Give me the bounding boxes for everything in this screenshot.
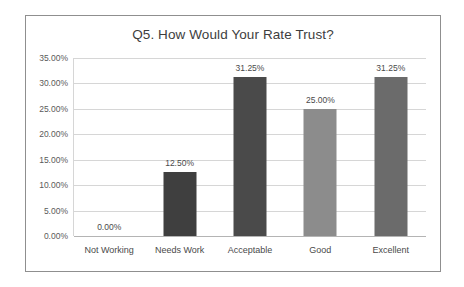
y-axis-tick-label: 5.00% [44,206,68,216]
y-axis-tick-label: 25.00% [39,104,68,114]
bar-slot: 25.00%Good [285,58,355,236]
x-axis-category-label: Good [309,245,331,255]
y-axis-tick-label: 15.00% [39,155,68,165]
bar-slot: 31.25%Excellent [356,58,426,236]
x-axis-category-label: Needs Work [155,245,204,255]
gridline: 0.00% [74,236,426,237]
bar-slot: 31.25%Acceptable [215,58,285,236]
bar-value-label: 12.50% [165,158,194,168]
plot-area: 35.00%30.00%25.00%20.00%15.00%10.00%5.00… [74,58,426,236]
y-axis-tick-label: 35.00% [39,53,68,63]
x-axis-category-label: Acceptable [228,245,273,255]
y-axis-tick-label: 10.00% [39,180,68,190]
bar[interactable] [163,172,196,236]
x-axis-category-label: Excellent [373,245,410,255]
bar-value-label: 25.00% [306,95,335,105]
bar-slot: 12.50%Needs Work [144,58,214,236]
bar-value-label: 31.25% [236,63,265,73]
bar-slot: 0.00%Not Working [74,58,144,236]
y-axis-tick-label: 0.00% [44,231,68,241]
chart-frame: Q5. How Would Your Rate Trust? 35.00%30.… [25,15,441,272]
bar[interactable] [233,77,266,236]
y-axis-tick-label: 20.00% [39,129,68,139]
bar-value-label: 0.00% [97,222,121,232]
x-axis-category-label: Not Working [85,245,134,255]
bar[interactable] [374,77,407,236]
bar-value-label: 31.25% [376,63,405,73]
chart-title: Q5. How Would Your Rate Trust? [26,27,440,42]
bar[interactable] [304,109,337,236]
y-axis-tick-label: 30.00% [39,78,68,88]
